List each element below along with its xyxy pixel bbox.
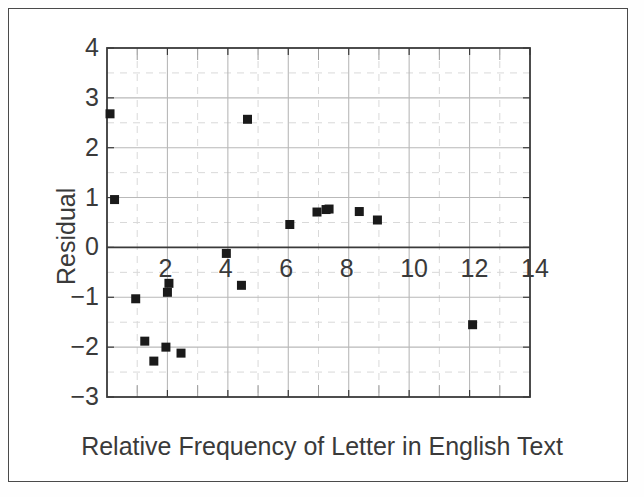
x-tick-label: 4 (219, 256, 233, 281)
data-point-marker (285, 220, 294, 229)
data-point-marker (237, 281, 246, 290)
data-point-marker (468, 320, 477, 329)
y-axis-label: Residual (52, 188, 81, 285)
data-point-marker (149, 357, 158, 366)
x-tick-label: 14 (521, 256, 549, 281)
data-point-marker (161, 343, 170, 352)
plot-wrapper: 246810121443210−1−2−3 (0, 0, 644, 497)
y-tick-label: −3 (59, 384, 99, 409)
data-point-marker (373, 216, 382, 225)
data-point-marker (312, 208, 321, 217)
data-point-marker (106, 109, 115, 118)
data-point-marker (325, 205, 334, 214)
x-tick-label: 12 (461, 256, 489, 281)
data-point-marker (163, 288, 172, 297)
data-point-marker (131, 294, 140, 303)
y-tick-label: 2 (59, 135, 99, 160)
y-tick-label: −1 (59, 284, 99, 309)
y-tick-label: −2 (59, 334, 99, 359)
data-point-marker (355, 207, 364, 216)
x-tick-label: 6 (279, 256, 293, 281)
figure-container: 246810121443210−1−2−3 Residual Relative … (0, 0, 644, 497)
minor-gridlines (107, 48, 530, 397)
x-tick-label: 2 (158, 256, 172, 281)
data-point-marker (243, 115, 252, 124)
data-point-marker (140, 337, 149, 346)
y-tick-label: 4 (59, 35, 99, 60)
x-axis-label: Relative Frequency of Letter in English … (0, 432, 644, 461)
y-tick-label: 3 (59, 85, 99, 110)
x-tick-label: 10 (400, 256, 428, 281)
x-tick-label: 8 (340, 256, 354, 281)
data-point-marker (110, 195, 119, 204)
data-point-marker (177, 349, 186, 358)
